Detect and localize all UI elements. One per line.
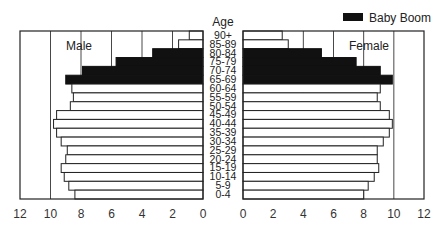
male-bar-70-74: [83, 66, 203, 75]
age-axis: 90+85-8980-8475-7970-7465-6960-6455-5950…: [210, 29, 237, 200]
male-x-tick: 4: [139, 207, 146, 221]
female-x-tick: 4: [300, 207, 307, 221]
female-bar-10-14: [243, 172, 374, 181]
male-bar-40-44: [54, 119, 203, 128]
female-bar-0-4: [243, 190, 364, 199]
female-x-tick: 12: [417, 207, 431, 221]
male-bar-45-49: [57, 111, 203, 120]
female-bar-55-59: [243, 93, 377, 102]
male-bar-65-69: [66, 75, 203, 84]
female-bar-90+: [243, 31, 282, 40]
female-bar-65-69: [243, 75, 392, 84]
legend: Baby Boom: [343, 11, 431, 25]
male-bar-60-64: [72, 84, 203, 93]
male-bar-90+: [189, 31, 203, 40]
male-bar-25-29: [67, 146, 203, 155]
female-x-tick: 8: [360, 207, 367, 221]
female-label: Female: [349, 39, 389, 53]
male-bar-0-4: [75, 190, 203, 199]
age-header: Age: [212, 15, 234, 29]
legend-label-baby-boom: Baby Boom: [369, 11, 431, 25]
male-bar-20-24: [66, 155, 203, 164]
male-x-tick: 6: [108, 207, 115, 221]
female-bar-70-74: [243, 66, 380, 75]
male-label: Male: [66, 39, 92, 53]
male-bar-35-39: [57, 128, 203, 137]
male-x-tick: 0: [200, 207, 207, 221]
male-x-tick: 10: [44, 207, 58, 221]
female-bar-15-19: [243, 164, 379, 173]
male-bar-85-89: [179, 40, 203, 49]
female-bar-85-89: [243, 40, 288, 49]
female-x-tick: 0: [240, 207, 247, 221]
female-bar-75-79: [243, 58, 356, 67]
age-label: 0-4: [215, 188, 230, 200]
male-x-tick: 12: [13, 207, 27, 221]
population-pyramid-chart: 024681012 024681012 90+85-8980-8475-7970…: [0, 0, 446, 234]
male-bar-30-34: [61, 137, 203, 146]
male-panel: 024681012: [13, 31, 206, 221]
female-bar-40-44: [243, 119, 392, 128]
female-bar-30-34: [243, 137, 383, 146]
male-bar-50-54: [70, 102, 203, 111]
female-bar-35-39: [243, 128, 389, 137]
female-bar-60-64: [243, 84, 380, 93]
male-bar-75-79: [116, 58, 203, 67]
female-bar-20-24: [243, 155, 377, 164]
male-bar-5-9: [69, 181, 203, 190]
male-x-tick: 2: [169, 207, 176, 221]
male-bar-15-19: [61, 164, 203, 173]
male-x-tick: 8: [78, 207, 85, 221]
female-x-tick: 6: [330, 207, 337, 221]
female-bar-25-29: [243, 146, 377, 155]
female-bar-50-54: [243, 102, 380, 111]
female-bar-80-84: [243, 49, 321, 58]
female-panel: 024681012: [240, 31, 431, 221]
female-x-tick: 2: [270, 207, 277, 221]
female-bar-5-9: [243, 181, 368, 190]
female-bar-45-49: [243, 111, 389, 120]
male-bar-10-14: [64, 172, 203, 181]
female-x-tick: 10: [387, 207, 401, 221]
male-bar-80-84: [153, 49, 203, 58]
male-bar-55-59: [73, 93, 203, 102]
legend-swatch-baby-boom: [343, 13, 363, 21]
